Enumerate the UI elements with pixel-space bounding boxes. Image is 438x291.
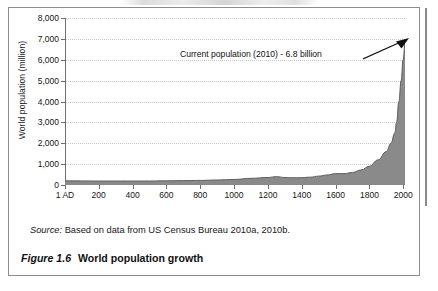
y-axis-tick-label: 1,000 [38, 160, 59, 169]
source-line: Source: Based on data from US Census Bur… [30, 224, 290, 236]
x-axis-tick-label: 1200 [258, 191, 277, 200]
population-area-series [65, 18, 405, 185]
page-edge-artifact [425, 8, 427, 206]
x-axis-tick-label: 1400 [292, 191, 311, 200]
source-text: Based on data from US Census Bureau 2010… [65, 225, 290, 235]
source-label: Source: [30, 225, 62, 235]
x-axis-tick [200, 185, 201, 189]
population-chart: World population (million) 01,0002,0003,… [8, 7, 420, 212]
x-axis-tick [302, 185, 303, 189]
x-axis-tick-label: 400 [125, 191, 139, 200]
x-axis-tick [234, 185, 235, 189]
x-axis-tick-label: 2000 [394, 191, 413, 200]
x-axis-tick [336, 185, 337, 189]
plot-area: 01,0002,0003,0004,0005,0006,0007,0008,00… [65, 18, 405, 185]
y-axis-tick-label: 3,000 [38, 118, 59, 127]
x-axis-tick [369, 185, 370, 189]
y-axis-title: World population (million) [17, 30, 27, 150]
x-axis-tick [268, 185, 269, 189]
annotation-current-population: Current population (2010) - 6.8 billion [180, 49, 322, 59]
y-axis-tick-label: 2,000 [38, 139, 59, 148]
y-axis-tick-label: 7,000 [38, 35, 59, 44]
y-axis-tick-label: 5,000 [38, 77, 59, 86]
x-axis-tick-label: 1 AD [56, 191, 74, 200]
x-axis-tick-label: 1800 [360, 191, 379, 200]
x-axis-tick [133, 185, 134, 189]
scan-artifact-top-text [120, 0, 320, 5]
figure-number: Figure 1.6 [21, 252, 71, 264]
figure-caption: Figure 1.6 World population growth [21, 251, 203, 265]
x-axis-tick [403, 185, 404, 189]
x-axis-tick-label: 1000 [225, 191, 244, 200]
y-axis-tick-label: 8,000 [38, 14, 59, 23]
x-axis-tick-label: 800 [193, 191, 207, 200]
x-axis-tick-label: 1600 [326, 191, 345, 200]
x-axis-tick [166, 185, 167, 189]
figure-title: World population growth [78, 252, 203, 264]
y-axis-tick-label: 4,000 [38, 98, 59, 107]
x-axis-tick [65, 185, 66, 189]
x-axis-tick-label: 600 [159, 191, 173, 200]
y-axis-tick-label: 6,000 [38, 56, 59, 65]
x-axis-tick [99, 185, 100, 189]
y-axis-tick-label: 0 [54, 181, 59, 190]
x-axis-tick-label: 200 [92, 191, 106, 200]
